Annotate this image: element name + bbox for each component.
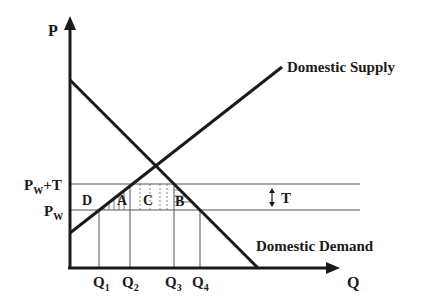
- q1-label: Q1: [93, 274, 110, 293]
- tariff-diagram: P Q Domestic Supply Domestic Demand PW+T…: [0, 0, 430, 308]
- q4-label: Q4: [192, 274, 209, 293]
- demand-curve-label: Domestic Demand: [256, 238, 374, 254]
- y-axis-label: P: [48, 22, 58, 39]
- world-price-label: PW: [44, 203, 63, 222]
- x-axis-label: Q: [347, 274, 359, 291]
- area-a-label: A: [117, 193, 128, 208]
- area-c-label: C: [143, 193, 153, 208]
- area-b-label: B: [175, 194, 184, 209]
- q3-label: Q3: [165, 274, 182, 293]
- supply-curve-label: Domestic Supply: [287, 59, 395, 75]
- tariff-double-arrow-icon: [269, 188, 275, 207]
- q2-label: Q2: [122, 274, 139, 293]
- y-axis-arrow-icon: [64, 16, 76, 30]
- x-axis-arrow-icon: [326, 262, 340, 274]
- tariff-label: T: [281, 190, 291, 206]
- area-d-label: D: [82, 193, 92, 208]
- tariff-price-label: PW+T: [24, 177, 62, 196]
